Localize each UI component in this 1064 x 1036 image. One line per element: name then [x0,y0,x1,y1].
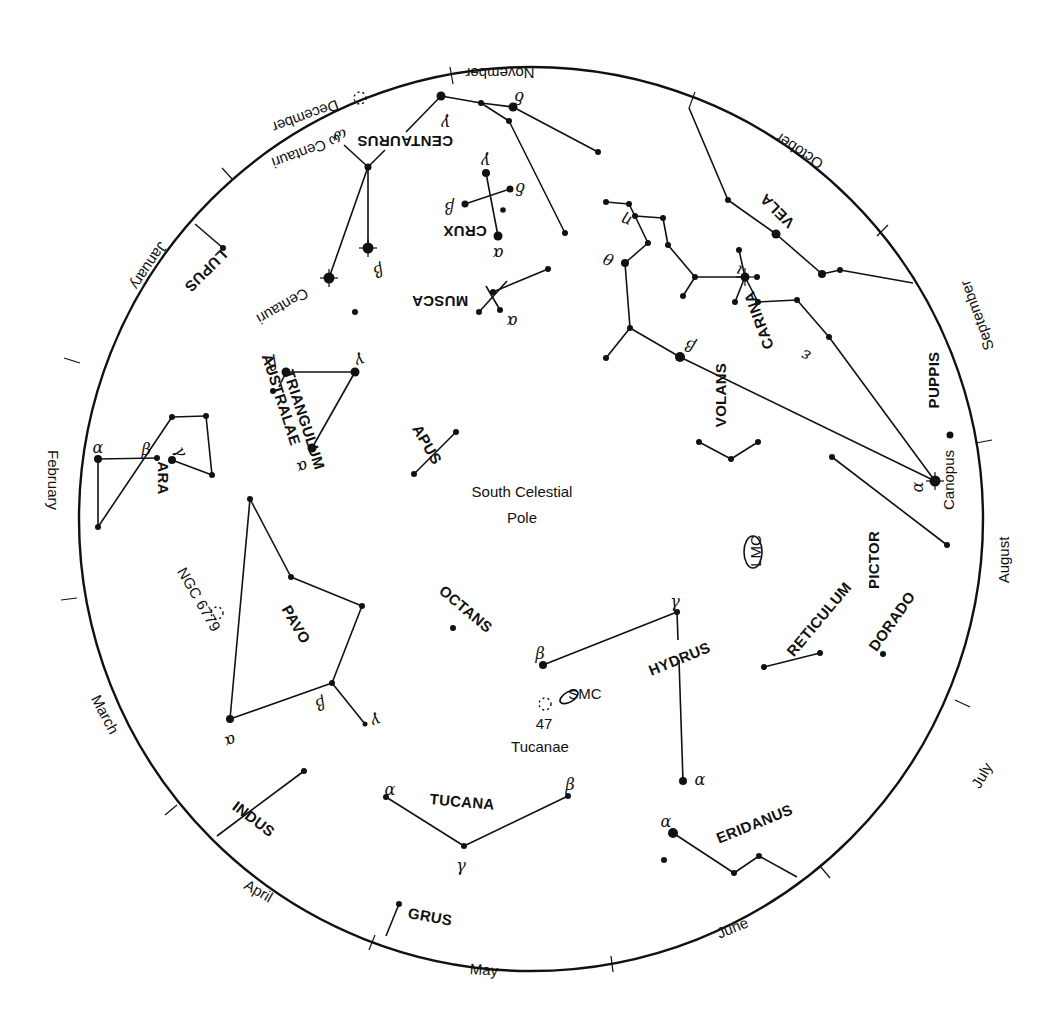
star-dot [209,472,215,478]
star-dot [494,232,503,241]
star-dot [680,293,686,299]
constellation-line [663,218,668,245]
star-dot [603,199,609,205]
star-dot [363,722,368,727]
star-dot [728,456,734,462]
star-dot [545,266,551,272]
month-label-july: July [968,759,996,791]
greek-letter-label: α [492,244,503,263]
center-label-line1: South Celestial [472,483,573,500]
star-dot [365,164,372,171]
constellation-line [734,856,759,873]
greek-letter-label: γ [481,152,491,171]
star-dot [507,186,514,193]
constellation-line [406,96,441,132]
constellation-line [332,683,365,724]
bright-star-spikes [320,239,944,490]
constellation-line [689,108,728,200]
constellation-line [635,216,663,218]
star-dot [679,777,687,785]
star-dot [226,715,234,723]
month-tick [222,168,233,180]
star-dot [725,197,731,203]
month-tick [165,805,177,815]
greek-letter-label: α [294,456,311,478]
greek-letter-label: η [619,210,635,231]
object-label--centauri: ω Centauri [270,131,344,172]
constellation-line [758,300,797,302]
greek-letter-label: β [371,260,387,281]
month-label-november: November [465,65,534,82]
star-dot [169,414,175,420]
south-celestial-pole-label: South Celestial Pole [472,483,573,526]
constellation-line [509,121,565,233]
star-dot [818,270,826,278]
constellation-line [250,499,291,577]
center-label-line2: Pole [507,509,537,526]
constellation-label-puppis: PUPPIS [925,352,942,409]
star-dot [562,230,568,236]
greek-letter-label: α [661,812,672,831]
constellation-line [683,277,695,296]
constellation-label-crux: CRUX [443,223,487,240]
constellation-line [759,856,797,877]
star-dot [500,207,506,213]
month-label-april: April [242,876,276,906]
star-dot [352,309,358,315]
constellation-line [731,442,758,459]
month-label-december: December [270,97,341,137]
star-dot [660,215,666,221]
star-dot [826,334,832,340]
greek-letter-label: γ [456,856,466,875]
greek-letter-label: θ [601,248,617,269]
month-tick [820,866,830,878]
constellation-line [332,606,362,683]
star-dot [880,651,886,657]
star-dot [944,542,950,548]
star-dot [462,201,469,208]
constellation-label-apus: APUS [409,421,445,467]
object-label-lmc: LMC [747,535,764,567]
month-label-october: October [772,130,826,173]
greek-letter-label: γ [368,710,384,731]
object-label-smc: SMC [568,685,602,702]
constellation-line [677,612,678,640]
constellation-line [679,660,683,781]
constellation-line [291,577,362,606]
greek-letter-label: ε [798,346,813,367]
constellation-line [625,263,630,328]
magellanic-clouds [558,536,762,706]
greek-letter-label: γ [670,592,680,611]
greek-letter-label: β [564,775,574,794]
constellation-line [668,245,695,277]
month-label-september: September [956,278,997,353]
greek-letter-label: β [682,335,698,356]
star-dot [506,118,512,124]
constellation-line [172,416,206,417]
greek-letter-label: δ [514,88,524,107]
greek-letter-label: α [695,770,706,789]
month-label-june: June [714,914,751,942]
object-label-ngc-6779: NGC 6779 [174,564,224,634]
star-dot [461,843,467,849]
greek-letter-label: α [908,481,927,492]
star-dot [696,439,702,445]
constellation-line [606,328,630,358]
constellation-line [465,189,510,204]
star-dot [665,242,671,248]
constellation-line [625,243,648,263]
constellation-line [699,442,731,459]
star-dot [453,429,459,435]
star-dot [450,625,456,631]
constellation-label-vela: VELA [756,190,797,231]
star-dot [731,870,737,876]
star-dot [203,413,209,419]
month-tick [955,700,970,707]
constellation-label-centaurus: CENTAURUS [357,133,453,150]
greek-letter-label: α [93,438,104,457]
star-dot [396,901,402,907]
month-label-january: January [127,239,171,293]
greek-letter-label: β [444,198,454,217]
star-dot [772,230,781,239]
constellation-label-eridanus: ERIDANUS [714,801,795,847]
